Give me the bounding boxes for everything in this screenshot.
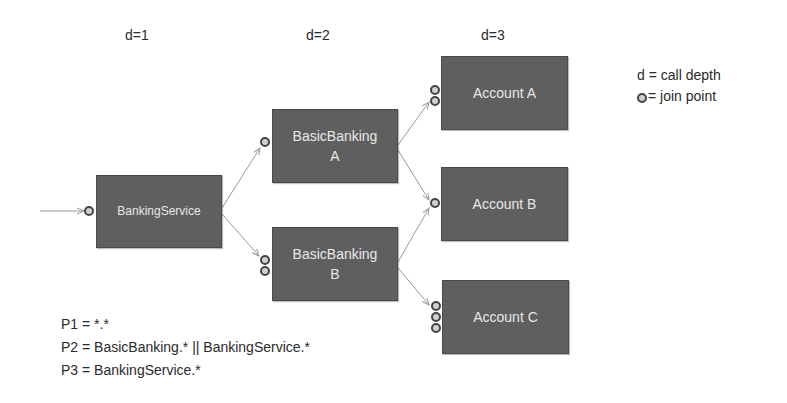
join-point-icon [260,255,270,265]
join-point-icon [431,323,441,333]
node-account-b: Account B [441,167,568,241]
node-label-line1: BasicBanking [293,126,378,146]
join-point-icon [430,96,440,106]
edge-basicbankinga-accounta [398,102,429,145]
legend: d = call depth = join point [637,65,721,107]
node-label: Account C [473,307,538,327]
edge-basicbankinga-accountb [398,150,429,200]
pointcut-p3: P3 = BankingService.* [61,359,310,382]
edge-basicbankingb-accountc [398,268,429,305]
pointcut-p1: P1 = *.* [61,313,310,336]
node-label: Account A [473,83,536,103]
join-point-icon [431,312,441,322]
pointcut-list: P1 = *.* P2 = BasicBanking.* || BankingS… [61,313,310,382]
pointcut-p2: P2 = BasicBanking.* || BankingService.* [61,336,310,359]
join-point-icon [637,93,647,103]
node-account-a: Account A [441,56,568,130]
node-label-line2: B [293,264,378,284]
join-point-icon [430,85,440,95]
node-basic-banking-a: BasicBanking A [272,109,398,183]
edge-basicbankingb-accountb [398,208,429,262]
legend-depth: d = call depth [637,65,721,86]
node-label-line2: A [293,146,378,166]
join-point-icon [260,266,270,276]
edge-bankingservice-basicbankingb [222,214,259,256]
legend-join-point: = join point [648,86,716,107]
join-point-icon [431,301,441,311]
join-point-icon [84,206,94,216]
node-label: Account B [473,194,537,214]
node-basic-banking-b: BasicBanking B [272,227,398,301]
node-label: BankingService [117,203,200,220]
join-point-icon [430,198,440,208]
node-account-c: Account C [442,280,569,354]
join-point-icon [260,137,270,147]
edge-bankingservice-basicbankinga [222,148,260,208]
node-banking-service: BankingService [96,175,222,248]
node-label-line1: BasicBanking [293,244,378,264]
